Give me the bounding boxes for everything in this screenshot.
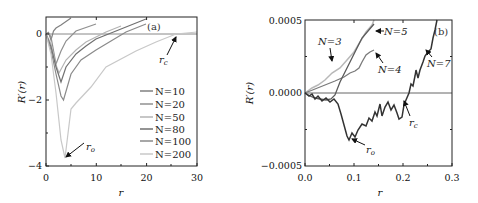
- b-panel-tag: (b): [434, 26, 448, 37]
- legend-n10: N=10: [155, 86, 185, 97]
- b-n3-label: N=3: [317, 36, 342, 47]
- rc-arrow-b: [404, 101, 410, 116]
- n3-arrow: [330, 48, 332, 61]
- a-ytick-0: 0: [36, 28, 42, 39]
- ro-arrow-b: [352, 139, 365, 145]
- figure: 0 10 20 30 0 −2 −4 r R′(r) (a) ro rc N=1…: [0, 0, 478, 203]
- b-ylabel: R′(r): [244, 82, 255, 105]
- panel-a: 0 10 20 30 0 −2 −4 r R′(r) (a) ro rc N=1…: [16, 17, 203, 198]
- b-xtick-2: 0.2: [395, 172, 410, 183]
- b-ytick-1: 0.0000: [269, 87, 302, 98]
- legend-n200: N=200: [155, 149, 191, 160]
- a-xtick-3: 30: [191, 172, 203, 183]
- a-rc-label: rc: [159, 54, 168, 67]
- a-ro-label: ro: [86, 141, 95, 154]
- b-n7-label: N=7: [426, 58, 451, 69]
- b-xlabel: r: [378, 187, 384, 198]
- b-ytick-0: 0.0005: [269, 15, 302, 26]
- rc-arrow-a: [167, 37, 176, 55]
- a-xtick-0: 0: [43, 172, 49, 183]
- n4-arrow: [376, 53, 383, 63]
- a-panel-tag: (a): [147, 21, 161, 32]
- a-xlabel: r: [119, 187, 125, 198]
- ro-arrow-a: [66, 143, 84, 157]
- b-xtick-0: 0.0: [297, 172, 312, 183]
- a-ylabel: R′(r): [16, 81, 27, 104]
- b-ytick-2: −0.0005: [261, 160, 302, 171]
- a-xtick-1: 10: [90, 172, 102, 183]
- b-rc-label: rc: [409, 117, 418, 130]
- b-n5-label: N=5: [383, 26, 408, 37]
- series-n100: [46, 24, 146, 100]
- b-xtick-3: 0.3: [444, 172, 459, 183]
- legend-n100: N=100: [155, 136, 191, 147]
- legend: N=10 N=20 N=50 N=80 N=100 N=200: [140, 86, 191, 160]
- legend-n20: N=20: [155, 99, 185, 110]
- b-n4-label: N=4: [377, 64, 402, 75]
- series-n10: [46, 18, 71, 40]
- b-xtick-1: 0.1: [346, 172, 361, 183]
- a-xtick-2: 20: [141, 172, 153, 183]
- panel-b: 0.0 0.1 0.2 0.3 0.0005 0.0000 −0.0005 r …: [244, 15, 460, 198]
- b-ro-label: ro: [366, 144, 375, 157]
- legend-n80: N=80: [155, 124, 185, 135]
- legend-n50: N=50: [155, 112, 185, 123]
- a-ytick-1: −2: [28, 94, 42, 105]
- a-ytick-2: −4: [28, 160, 42, 171]
